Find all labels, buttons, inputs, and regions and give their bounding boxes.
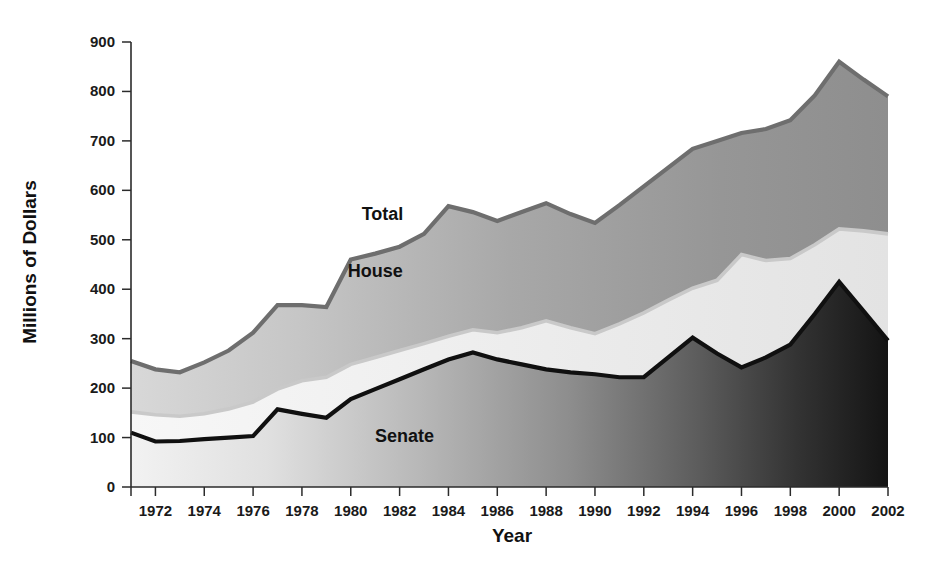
- x-tick-label: 1996: [725, 502, 758, 519]
- x-tick-label: 1978: [285, 502, 318, 519]
- stacked-area-chart: 0100200300400500600700800900 19721974197…: [0, 0, 947, 566]
- y-tick-label: 0: [107, 478, 115, 495]
- y-tick-label: 100: [90, 429, 115, 446]
- x-tick-label: 1984: [432, 502, 466, 519]
- x-axis-tick-labels: 1972197419761978198019821984198619881990…: [139, 502, 905, 519]
- y-axis-ticks: [122, 42, 131, 487]
- series-label-senate: Senate: [375, 426, 434, 446]
- x-tick-label: 1988: [529, 502, 562, 519]
- series-label-total: Total: [362, 204, 404, 224]
- x-axis-ticks: [131, 487, 888, 496]
- y-tick-label: 300: [90, 330, 115, 347]
- y-tick-label: 500: [90, 231, 115, 248]
- x-tick-label: 1980: [334, 502, 367, 519]
- y-tick-label: 200: [90, 379, 115, 396]
- y-tick-label: 700: [90, 132, 115, 149]
- x-axis-title: Year: [492, 525, 533, 546]
- x-tick-label: 1982: [383, 502, 416, 519]
- y-tick-label: 600: [90, 181, 115, 198]
- x-tick-label: 1976: [236, 502, 269, 519]
- x-tick-label: 1998: [774, 502, 807, 519]
- y-tick-label: 900: [90, 33, 115, 50]
- x-tick-label: 1994: [676, 502, 710, 519]
- chart-container: 0100200300400500600700800900 19721974197…: [0, 0, 947, 566]
- x-tick-label: 1992: [627, 502, 660, 519]
- y-tick-label: 400: [90, 280, 115, 297]
- series-label-house: House: [348, 261, 403, 281]
- y-tick-label: 800: [90, 82, 115, 99]
- x-tick-label: 2002: [871, 502, 904, 519]
- x-tick-label: 2000: [822, 502, 855, 519]
- x-tick-label: 1974: [188, 502, 222, 519]
- x-tick-label: 1986: [481, 502, 514, 519]
- x-tick-label: 1972: [139, 502, 172, 519]
- y-axis-tick-labels: 0100200300400500600700800900: [90, 33, 115, 495]
- x-tick-label: 1990: [578, 502, 611, 519]
- y-axis-title: Millions of Dollars: [19, 180, 40, 344]
